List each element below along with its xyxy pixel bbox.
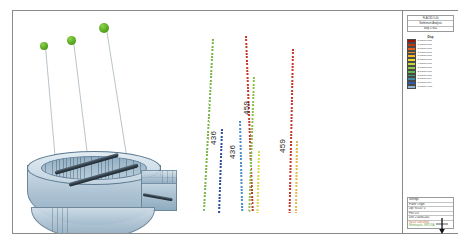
deflection-curve-459-b[interactable]: [289, 49, 294, 213]
legend-value: 0.0000e+000: [416, 85, 454, 89]
curve-label-459-a: 459: [242, 101, 251, 115]
deflection-curve-436-b-lower: [256, 151, 260, 213]
deflection-curve-436-a[interactable]: [203, 39, 214, 211]
panel-header-block: FLAC3D 5.00 Settlement Analysis Step 178…: [407, 15, 454, 32]
cofferdam-base-band: [31, 207, 155, 233]
results-legend-panel: FLAC3D 5.00 Settlement Analysis Step 178…: [403, 11, 458, 233]
curve-label-459-b: 459: [278, 139, 287, 153]
monitor-point-marker-3[interactable]: [99, 23, 109, 33]
panel-header-line-3: Step 17842: [408, 27, 453, 31]
deflection-curve-459-b-lower: [295, 141, 298, 213]
legend-row[interactable]: 0.0000e+000: [407, 85, 454, 89]
circular-cofferdam-mesh[interactable]: [21, 149, 181, 233]
3d-results-viewport[interactable]: 436 459 436 459: [13, 11, 402, 233]
monitor-point-marker-2[interactable]: [67, 36, 76, 45]
deflection-curve-436-a-lower: [218, 129, 223, 213]
curve-label-436-a: 436: [209, 131, 218, 145]
monitor-point-marker-1[interactable]: [40, 42, 48, 50]
application-window-frame: 436 459 436 459 FLAC3D 5.00 Settlement A…: [12, 10, 458, 234]
monitor-hanger-line-2: [73, 41, 89, 166]
axis-orientation-indicator: [433, 217, 451, 235]
contour-colour-legend: 1.0000e-002 9.0000e-003 8.0000e-003 7.00…: [407, 39, 454, 89]
curve-label-436-b: 436: [228, 145, 237, 159]
monitor-hanger-line-3: [106, 29, 129, 165]
legend-swatch: [407, 85, 416, 89]
access-gallery-top: [141, 170, 177, 184]
deflection-curve-459-a-lower: [239, 121, 243, 213]
